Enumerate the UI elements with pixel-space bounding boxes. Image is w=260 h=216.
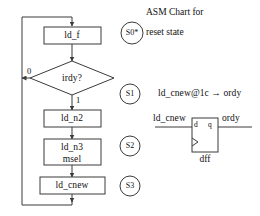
state-s3-label: S3 xyxy=(126,182,134,190)
dff-output-label: ordy xyxy=(222,114,240,124)
dff-pin-q-label: q xyxy=(208,121,212,129)
state-s1-label: S1 xyxy=(126,90,134,98)
box-ld-n3-label-line2: msel xyxy=(63,155,81,165)
dff-name-label: dff xyxy=(199,155,210,165)
chart-title-line1: ASM Chart for xyxy=(146,8,204,18)
box-ld-n2-label: ld_n2 xyxy=(61,114,83,124)
decision-irdy-label: irdy? xyxy=(62,74,82,84)
state-s2-label: S2 xyxy=(126,142,134,150)
dff-input-label: ld_cnew xyxy=(153,114,186,124)
state-s0-label: S0* xyxy=(126,29,138,37)
asm-chart-canvas: ASM Chart for reset state ld_f ld_n2 ld_… xyxy=(0,0,260,216)
box-ld-n3-label-line1: ld_n3 xyxy=(61,143,83,153)
box-ld-cnew-label: ld_cnew xyxy=(56,181,89,191)
output-expression-label: ld_cnew@1c → ordy xyxy=(158,89,241,99)
chart-title-line2: reset state xyxy=(146,28,184,38)
dff-pin-d-label: d xyxy=(194,121,198,129)
box-ld-f-label: ld_f xyxy=(64,31,80,41)
decision-true-branch-label: 1 xyxy=(76,96,80,105)
decision-false-branch-label: 0 xyxy=(27,67,31,76)
